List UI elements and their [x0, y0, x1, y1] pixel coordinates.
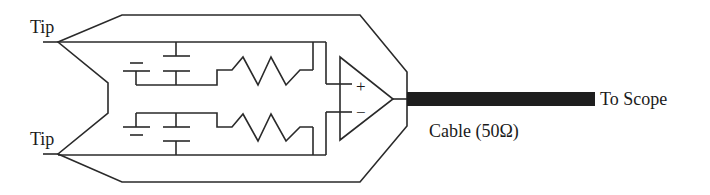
cable-bar — [407, 92, 595, 106]
capacitor-bottom-symbol — [163, 113, 190, 141]
to-scope-label: To Scope — [600, 89, 667, 109]
battery-bottom-symbol — [123, 113, 150, 135]
resistor-top-symbol — [136, 57, 313, 85]
opamp-plus-label: + — [356, 77, 366, 96]
capacitor-top-symbol — [163, 56, 190, 85]
cable-label: Cable (50Ω) — [429, 121, 519, 142]
probe-housing — [58, 15, 407, 182]
probe-circuit-diagram: + − Tip Tip To Scope Cable (50Ω) — [0, 0, 710, 195]
resistor-bottom-symbol — [136, 113, 313, 141]
battery-top-symbol — [123, 63, 150, 85]
opamp-symbol — [340, 57, 407, 140]
tip-bottom-label: Tip — [30, 129, 54, 149]
opamp-minus-label: − — [356, 103, 366, 122]
tip-top-label: Tip — [30, 17, 54, 37]
